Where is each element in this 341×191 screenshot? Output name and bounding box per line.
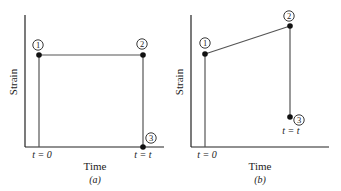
point-2-marker xyxy=(140,52,146,58)
tick-label-end: t = t xyxy=(282,125,300,136)
x-axis-label: Time xyxy=(84,160,107,172)
point-2-label: 2 xyxy=(140,39,144,49)
point-1-marker xyxy=(202,51,208,57)
point-1-label: 1 xyxy=(203,38,207,48)
panel-caption: (a) xyxy=(89,174,101,186)
tick-label-start: t = 0 xyxy=(32,149,52,160)
point-2-label: 2 xyxy=(287,11,291,21)
y-axis-label: Strain xyxy=(173,68,185,95)
y-axis-label: Strain xyxy=(7,68,19,95)
panel-caption: (b) xyxy=(254,174,266,186)
point-3-marker xyxy=(287,114,293,120)
point-2-marker xyxy=(287,23,293,29)
point-1-marker xyxy=(36,52,42,58)
strain-time-diagram: Strain 1 2 3 t = 0 t = t Time (a) Strain… xyxy=(0,0,341,191)
point-1-label: 1 xyxy=(36,40,40,50)
creep-line xyxy=(205,26,290,54)
tick-label-start: t = 0 xyxy=(197,149,217,160)
panel-a: Strain 1 2 3 t = 0 t = t Time (a) xyxy=(7,15,164,186)
point-3-label: 3 xyxy=(149,133,153,143)
panel-b: Strain 1 2 3 t = t t = 0 Time (b) xyxy=(173,11,329,186)
tick-label-end: t = t xyxy=(134,149,152,160)
point-3-label: 3 xyxy=(297,115,301,125)
x-axis-label: Time xyxy=(249,160,272,172)
